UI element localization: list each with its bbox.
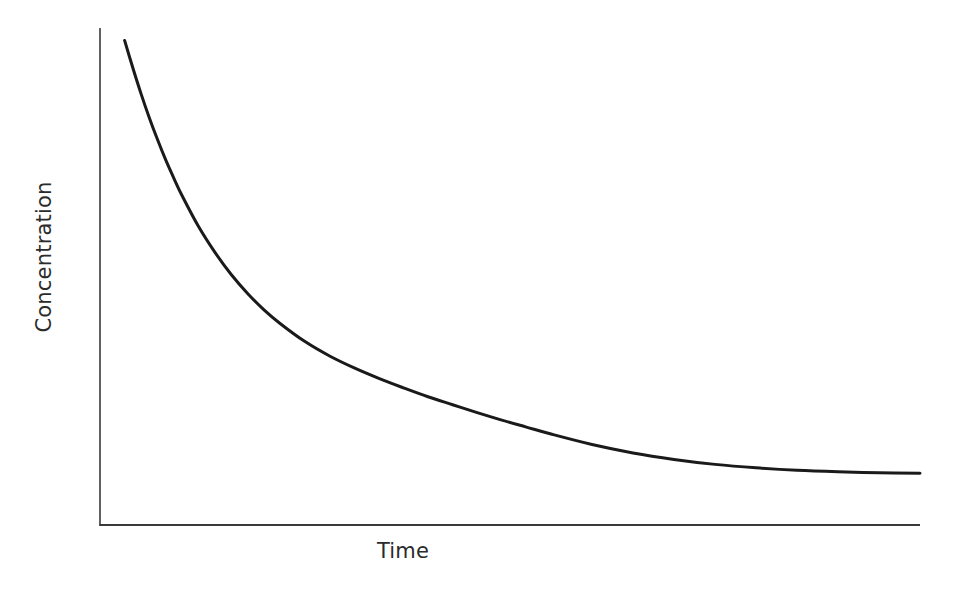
concentration-vs-time-line-chart: Concentration Time (0, 0, 953, 597)
y-axis-label: Concentration (32, 181, 56, 332)
chart-figure: Concentration Time (0, 0, 953, 597)
chart-background (0, 0, 953, 597)
x-axis-label: Time (376, 539, 429, 563)
